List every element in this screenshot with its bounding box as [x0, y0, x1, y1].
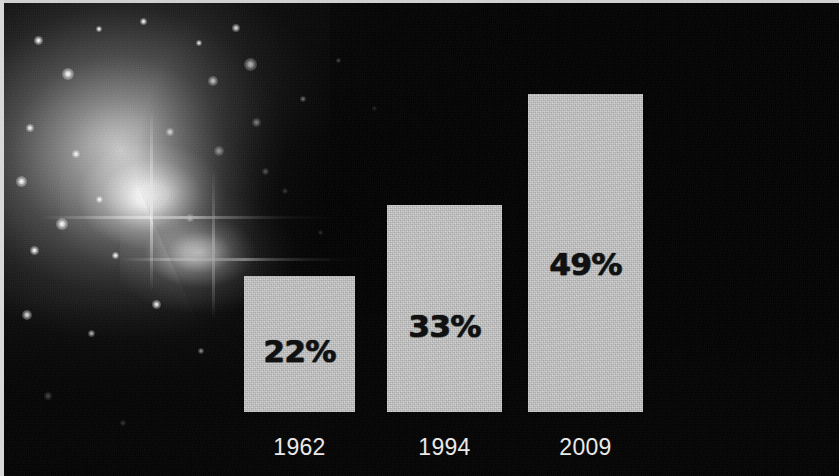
photo-top-edge-border	[0, 0, 839, 3]
photo-left-edge-border	[0, 0, 4, 476]
bar-1994: 33%	[387, 205, 502, 412]
bar-chart: 22% 1962 33% 1994 49% 2009	[0, 0, 839, 476]
bar-value-label-1994: 33%	[387, 311, 502, 342]
category-label-2009: 2009	[528, 436, 643, 459]
bar-2009: 49%	[528, 94, 643, 412]
category-label-1994: 1994	[387, 436, 502, 459]
bar-value-label-1962: 22%	[244, 336, 355, 367]
category-label-1962: 1962	[244, 436, 355, 459]
bar-1962: 22%	[244, 276, 355, 412]
chart-figure: 22% 1962 33% 1994 49% 2009	[0, 0, 839, 476]
bar-value-label-2009: 49%	[528, 249, 643, 280]
